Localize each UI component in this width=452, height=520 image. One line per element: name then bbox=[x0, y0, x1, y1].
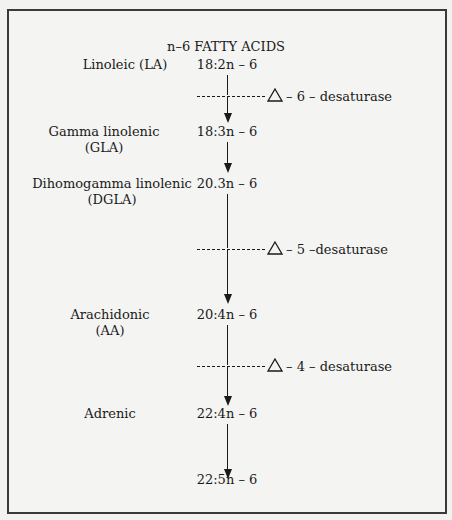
acid-abbrev-dgla: (DGLA) bbox=[88, 192, 137, 207]
acid-formula-linoleic: 18:2n – 6 bbox=[197, 57, 258, 72]
pathway-line bbox=[227, 75, 228, 95]
pathway-line bbox=[227, 325, 228, 365]
enzyme-label-delta4: – 4 – desaturase bbox=[286, 359, 392, 374]
acid-name-dgla: Dihomogamma linolenic bbox=[32, 176, 192, 191]
enzyme-label-delta6: – 6 – desaturase bbox=[286, 89, 392, 104]
acid-abbrev-aa: (AA) bbox=[96, 323, 125, 338]
acid-name-linoleic: Linoleic (LA) bbox=[83, 57, 168, 72]
pathway-line bbox=[227, 424, 228, 471]
acid-formula-dgla: 20.3n – 6 bbox=[197, 176, 257, 191]
acid-name-aa: Arachidonic bbox=[70, 307, 149, 322]
acid-abbrev-gla: (GLA) bbox=[85, 140, 124, 155]
enzyme-dashed-line bbox=[197, 366, 265, 367]
acid-formula-adrenic: 22:4n – 6 bbox=[197, 406, 258, 421]
enzyme-dashed-line bbox=[197, 249, 265, 250]
acid-name-gla: Gamma linolenic bbox=[49, 124, 160, 139]
arrow-down-icon bbox=[224, 113, 232, 123]
acid-formula-aa: 20:4n – 6 bbox=[197, 307, 258, 322]
delta-icon bbox=[267, 88, 283, 102]
acid-formula-final: 22:5n – 6 bbox=[197, 472, 258, 487]
arrow-down-icon bbox=[224, 396, 232, 406]
diagram-title: n–6 FATTY ACIDS bbox=[167, 39, 285, 54]
pathway-line bbox=[227, 250, 228, 295]
pathway-line bbox=[227, 97, 228, 114]
delta-icon bbox=[267, 241, 283, 255]
arrow-down-icon bbox=[224, 294, 232, 304]
pathway-line bbox=[227, 142, 228, 165]
acid-name-adrenic: Adrenic bbox=[84, 406, 135, 421]
pathway-line bbox=[227, 367, 228, 397]
arrow-down-icon bbox=[224, 163, 232, 173]
pathway-line bbox=[227, 194, 228, 248]
acid-formula-gla: 18:3n – 6 bbox=[197, 124, 258, 139]
delta-icon bbox=[267, 358, 283, 372]
enzyme-label-delta5: – 5 –desaturase bbox=[286, 242, 388, 257]
enzyme-dashed-line bbox=[197, 96, 265, 97]
